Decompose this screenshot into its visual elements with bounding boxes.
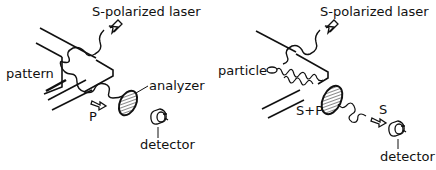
diagram-canvas xyxy=(0,0,436,170)
left-detector-label: detector xyxy=(140,138,195,151)
particle-label: particle xyxy=(218,64,267,77)
pattern-label: pattern xyxy=(6,67,54,80)
right-detector-icon xyxy=(389,121,406,136)
right-laser-wave xyxy=(283,30,320,64)
right-output-label: S xyxy=(379,103,387,116)
right-laser-arrow-icon xyxy=(325,20,338,33)
mixed-polarization-label: S+P xyxy=(296,104,323,117)
left-laser-label: S-polarized laser xyxy=(92,5,201,18)
left-laser-arrow-icon xyxy=(109,20,122,33)
analyzer-label: analyzer xyxy=(149,79,205,92)
left-detector-icon xyxy=(151,109,168,124)
left-analyzer-leader xyxy=(136,86,148,93)
left-output-label: P xyxy=(89,110,97,123)
right-laser-label: S-polarized laser xyxy=(320,5,429,18)
particle-icon xyxy=(267,67,277,73)
right-s-arrow-icon xyxy=(371,118,386,127)
right-detector-label: detector xyxy=(380,150,435,163)
